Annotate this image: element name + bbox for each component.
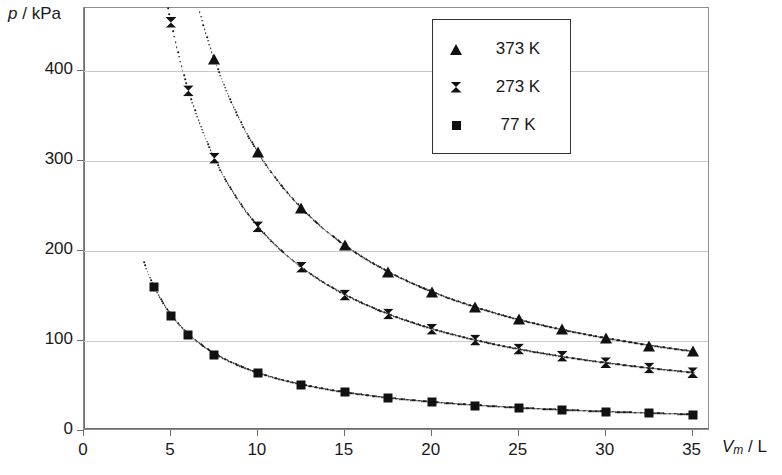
x-tick-label: 20 <box>411 440 451 460</box>
data-point <box>384 393 393 402</box>
legend-label: 273 K <box>479 77 557 97</box>
legend-marker-icon <box>433 32 479 66</box>
data-point <box>166 311 175 320</box>
data-series <box>84 8 708 429</box>
x-tick-label: 10 <box>237 440 277 460</box>
x-tick-mark <box>170 430 171 436</box>
legend-marker-icon <box>433 70 479 104</box>
y-tick-mark <box>77 70 83 71</box>
x-tick-mark <box>83 430 84 436</box>
x-tick-label: 35 <box>672 440 712 460</box>
data-point <box>427 398 436 407</box>
x-tick-mark <box>257 430 258 436</box>
y-tick-mark <box>77 340 83 341</box>
data-point <box>645 409 654 418</box>
x-tick-mark <box>344 430 345 436</box>
x-tick-label: 0 <box>63 440 103 460</box>
x-axis-subscript: m <box>733 443 743 457</box>
x-axis-title: Vm / L <box>722 437 767 457</box>
data-point <box>601 408 610 417</box>
trend-dot <box>150 280 152 282</box>
x-tick-label: 30 <box>585 440 625 460</box>
data-point <box>297 381 306 390</box>
trend-dot <box>149 277 151 279</box>
y-axis-title: p / kPa <box>8 4 61 24</box>
x-tick-mark <box>692 430 693 436</box>
y-tick-mark <box>77 250 83 251</box>
trend-dot <box>146 268 148 270</box>
trend-dot <box>144 265 146 267</box>
data-point <box>210 350 219 359</box>
y-axis-unit: kPa <box>32 4 61 23</box>
legend-item[interactable]: 373 K <box>433 32 570 66</box>
data-point <box>558 406 567 415</box>
legend: 373 K273 K77 K <box>432 19 571 154</box>
x-axis-symbol: V <box>722 437 733 456</box>
y-tick-label: 0 <box>13 419 73 439</box>
legend-label: 373 K <box>479 39 557 59</box>
trend-dot <box>143 261 145 263</box>
x-axis-unit: L <box>758 437 767 456</box>
legend-item[interactable]: 77 K <box>433 108 570 142</box>
data-point <box>688 410 697 419</box>
data-point <box>471 401 480 410</box>
legend-item[interactable]: 273 K <box>433 70 570 104</box>
legend-label: 77 K <box>479 115 557 135</box>
data-point <box>340 388 349 397</box>
chart-container: p / kPa Vm / L 0100200300400 05101520253… <box>0 0 782 475</box>
x-tick-label: 25 <box>498 440 538 460</box>
legend-marker-icon <box>433 108 479 142</box>
data-point <box>514 403 523 412</box>
x-axis-separator: / <box>743 437 757 456</box>
y-tick-label: 100 <box>13 329 73 349</box>
y-tick-label: 300 <box>13 149 73 169</box>
x-tick-mark <box>605 430 606 436</box>
y-tick-label: 400 <box>13 59 73 79</box>
y-axis-separator: / <box>17 4 31 23</box>
x-tick-mark <box>431 430 432 436</box>
x-tick-mark <box>518 430 519 436</box>
x-tick-label: 5 <box>150 440 190 460</box>
trend-dot <box>147 271 149 273</box>
plot-area <box>83 7 709 430</box>
data-point <box>184 330 193 339</box>
data-point <box>253 369 262 378</box>
trend-dot <box>148 274 150 276</box>
y-tick-mark <box>77 160 83 161</box>
data-point <box>149 283 158 292</box>
x-tick-label: 15 <box>324 440 364 460</box>
y-tick-label: 200 <box>13 239 73 259</box>
